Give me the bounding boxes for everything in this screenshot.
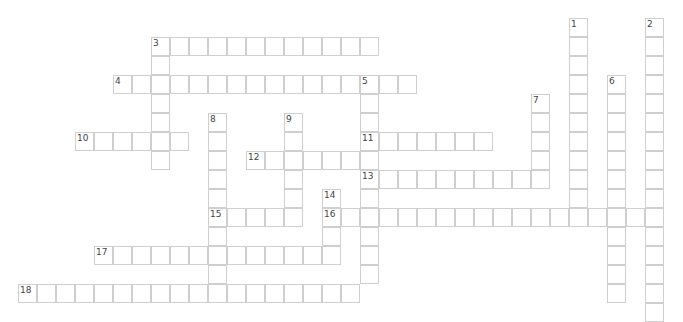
crossword-cell[interactable] — [284, 170, 303, 189]
crossword-cell[interactable] — [645, 75, 664, 94]
crossword-cell[interactable] — [227, 75, 246, 94]
crossword-cell[interactable] — [379, 132, 398, 151]
crossword-cell[interactable] — [170, 246, 189, 265]
crossword-cell[interactable] — [607, 189, 626, 208]
crossword-cell[interactable] — [645, 151, 664, 170]
crossword-cell[interactable] — [569, 189, 588, 208]
crossword-cell[interactable] — [398, 132, 417, 151]
crossword-cell[interactable] — [360, 227, 379, 246]
crossword-cell[interactable] — [303, 284, 322, 303]
crossword-cell[interactable] — [607, 208, 626, 227]
crossword-cell[interactable] — [170, 37, 189, 56]
crossword-cell[interactable] — [208, 132, 227, 151]
crossword-cell[interactable] — [284, 246, 303, 265]
crossword-cell[interactable] — [398, 75, 417, 94]
crossword-cell[interactable] — [265, 284, 284, 303]
crossword-cell[interactable] — [189, 284, 208, 303]
crossword-cell[interactable] — [227, 246, 246, 265]
crossword-cell[interactable] — [360, 94, 379, 113]
crossword-cell[interactable]: 12 — [246, 151, 265, 170]
crossword-cell[interactable] — [474, 132, 493, 151]
crossword-cell[interactable]: 18 — [18, 284, 37, 303]
crossword-cell[interactable] — [246, 37, 265, 56]
crossword-cell[interactable] — [645, 132, 664, 151]
crossword-cell[interactable] — [569, 170, 588, 189]
crossword-cell[interactable] — [645, 303, 664, 322]
crossword-cell[interactable] — [113, 132, 132, 151]
crossword-cell[interactable] — [569, 208, 588, 227]
crossword-cell[interactable] — [360, 37, 379, 56]
crossword-cell[interactable] — [284, 132, 303, 151]
crossword-cell[interactable]: 9 — [284, 113, 303, 132]
crossword-cell[interactable] — [227, 284, 246, 303]
crossword-cell[interactable]: 11 — [360, 132, 379, 151]
crossword-cell[interactable] — [284, 37, 303, 56]
crossword-cell[interactable] — [569, 132, 588, 151]
crossword-cell[interactable] — [550, 208, 569, 227]
crossword-cell[interactable] — [531, 170, 550, 189]
crossword-cell[interactable] — [360, 265, 379, 284]
crossword-cell[interactable] — [645, 113, 664, 132]
crossword-cell[interactable] — [607, 265, 626, 284]
crossword-cell[interactable] — [512, 208, 531, 227]
crossword-cell[interactable] — [607, 170, 626, 189]
crossword-cell[interactable] — [512, 170, 531, 189]
crossword-cell[interactable]: 4 — [113, 75, 132, 94]
crossword-cell[interactable] — [322, 227, 341, 246]
crossword-cell[interactable] — [341, 75, 360, 94]
crossword-cell[interactable] — [265, 75, 284, 94]
crossword-cell[interactable] — [151, 246, 170, 265]
crossword-cell[interactable] — [151, 284, 170, 303]
crossword-cell[interactable] — [569, 75, 588, 94]
crossword-cell[interactable] — [151, 75, 170, 94]
crossword-cell[interactable] — [322, 75, 341, 94]
crossword-cell[interactable] — [284, 284, 303, 303]
crossword-cell[interactable] — [151, 56, 170, 75]
crossword-cell[interactable]: 15 — [208, 208, 227, 227]
crossword-cell[interactable]: 10 — [75, 132, 94, 151]
crossword-cell[interactable] — [531, 113, 550, 132]
crossword-cell[interactable] — [94, 284, 113, 303]
crossword-cell[interactable] — [341, 37, 360, 56]
crossword-cell[interactable] — [645, 227, 664, 246]
crossword-cell[interactable] — [607, 151, 626, 170]
crossword-cell[interactable] — [132, 246, 151, 265]
crossword-cell[interactable] — [303, 75, 322, 94]
crossword-cell[interactable]: 13 — [360, 170, 379, 189]
crossword-cell[interactable] — [303, 37, 322, 56]
crossword-cell[interactable] — [265, 246, 284, 265]
crossword-cell[interactable] — [569, 151, 588, 170]
crossword-cell[interactable]: 17 — [94, 246, 113, 265]
crossword-cell[interactable] — [398, 208, 417, 227]
crossword-cell[interactable] — [151, 151, 170, 170]
crossword-cell[interactable]: 16 — [322, 208, 341, 227]
crossword-cell[interactable] — [645, 189, 664, 208]
crossword-cell[interactable]: 2 — [645, 18, 664, 37]
crossword-cell[interactable] — [265, 151, 284, 170]
crossword-cell[interactable] — [531, 132, 550, 151]
crossword-cell[interactable] — [284, 75, 303, 94]
crossword-cell[interactable] — [170, 284, 189, 303]
crossword-cell[interactable] — [94, 132, 113, 151]
crossword-cell[interactable] — [284, 208, 303, 227]
crossword-cell[interactable] — [645, 265, 664, 284]
crossword-cell[interactable] — [208, 189, 227, 208]
crossword-cell[interactable]: 5 — [360, 75, 379, 94]
crossword-cell[interactable]: 7 — [531, 94, 550, 113]
crossword-cell[interactable] — [208, 246, 227, 265]
crossword-cell[interactable] — [531, 208, 550, 227]
crossword-cell[interactable] — [303, 246, 322, 265]
crossword-cell[interactable] — [322, 246, 341, 265]
crossword-cell[interactable] — [227, 208, 246, 227]
crossword-cell[interactable] — [151, 132, 170, 151]
crossword-cell[interactable] — [189, 75, 208, 94]
crossword-cell[interactable] — [645, 56, 664, 75]
crossword-cell[interactable] — [265, 208, 284, 227]
crossword-cell[interactable] — [37, 284, 56, 303]
crossword-cell[interactable] — [189, 37, 208, 56]
crossword-cell[interactable]: 8 — [208, 113, 227, 132]
crossword-cell[interactable] — [455, 132, 474, 151]
crossword-cell[interactable] — [75, 284, 94, 303]
crossword-cell[interactable] — [436, 170, 455, 189]
crossword-cell[interactable] — [208, 227, 227, 246]
